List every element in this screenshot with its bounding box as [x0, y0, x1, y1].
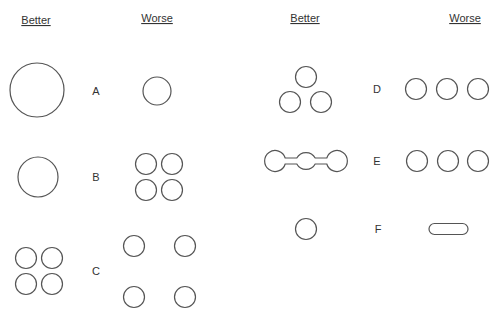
row-label-b: B [92, 171, 99, 183]
header-right-worse: Worse [449, 12, 481, 24]
row-label-f: F [375, 223, 382, 235]
a-worse-small-circle [143, 77, 171, 105]
e-better-connected-circles [265, 151, 348, 172]
a-better-large-circle [10, 63, 64, 117]
f-better-circle [296, 219, 317, 240]
f-worse-pill-shape [429, 224, 468, 235]
row-b: B [18, 154, 183, 201]
b-worse-circle-grid [136, 154, 183, 201]
row-e: E [265, 151, 489, 172]
row-a: A [10, 63, 171, 117]
row-f: F [296, 219, 469, 240]
b-better-circle [18, 157, 58, 197]
c-worse-spread-circles [124, 236, 196, 308]
header-left-better: Better [21, 14, 51, 26]
d-worse-row-circles [406, 79, 489, 100]
header-left-worse: Worse [141, 12, 173, 24]
row-d: D [280, 67, 489, 113]
row-label-e: E [373, 155, 380, 167]
header-right-better: Better [290, 12, 320, 24]
d-better-triangle-circles [280, 67, 332, 113]
comparison-diagram: Better Worse Better Worse A B C [0, 0, 501, 311]
row-label-a: A [92, 85, 100, 97]
e-worse-separate-circles [407, 151, 489, 172]
row-label-d: D [373, 83, 381, 95]
row-c: C [16, 236, 196, 308]
row-label-c: C [92, 265, 100, 277]
c-better-clustered-circles [16, 248, 63, 295]
